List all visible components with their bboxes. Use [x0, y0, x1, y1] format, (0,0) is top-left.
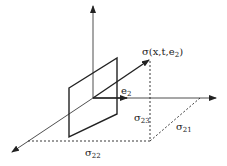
stress-diagram: σ(x,t,e2) e2 σ23 σ21 σ22 [0, 0, 227, 166]
diagram-canvas [0, 0, 227, 166]
sigma21-dashed [150, 98, 200, 141]
depth-axis [12, 98, 93, 152]
sigma22-label: σ22 [85, 148, 101, 160]
sigma23-label: σ23 [134, 113, 150, 125]
stress-vector-label: σ(x,t,e2) [142, 47, 183, 59]
sigma21-label: σ21 [176, 122, 192, 134]
e2-label: e2 [121, 86, 131, 98]
